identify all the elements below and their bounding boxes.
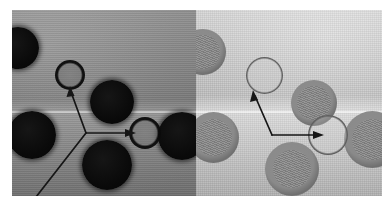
dark-cell-bottom	[82, 140, 132, 190]
target-ring-upper	[55, 60, 85, 90]
phase-cell-bottom	[265, 142, 319, 196]
right-panel-scan-seam	[196, 111, 382, 113]
target-ring-upper	[246, 57, 283, 94]
target-ring-right	[308, 115, 348, 155]
target-ring-right	[129, 117, 161, 149]
right-micrograph-panel	[196, 10, 382, 196]
left-micrograph-panel	[12, 10, 196, 196]
micrograph-figure	[0, 0, 392, 208]
dark-cell-upper-right	[90, 80, 134, 124]
